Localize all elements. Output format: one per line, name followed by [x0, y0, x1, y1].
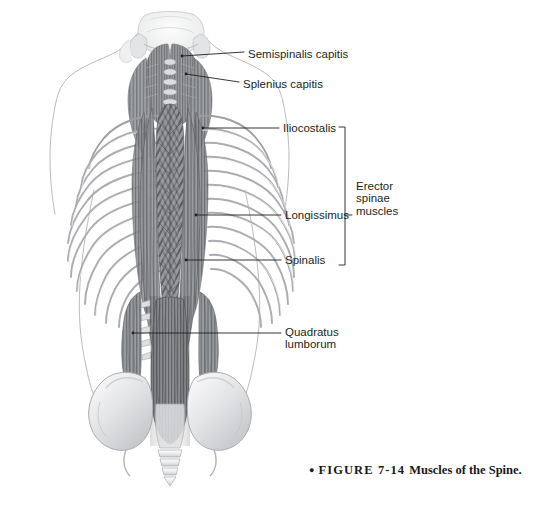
label-erector-spinae-muscles: Erector spinae muscles [356, 180, 398, 217]
label-iliocostalis: Iliocostalis [283, 122, 336, 134]
figure-container: Semispinalis capitis Splenius capitis Il… [0, 0, 544, 507]
spine-muscles-illustration [0, 0, 544, 507]
caption-figure-number: FIGURE 7-14 [318, 463, 405, 477]
caption-title: Muscles of the Spine. [409, 463, 522, 477]
label-semispinalis-capitis: Semispinalis capitis [248, 48, 348, 60]
figure-caption: ● FIGURE 7-14 Muscles of the Spine. [309, 460, 522, 478]
label-spinalis: Spinalis [285, 254, 325, 266]
label-splenius-capitis: Splenius capitis [243, 78, 323, 90]
erector-spinae-bracket [339, 127, 352, 265]
label-quadratus-lumborum: Quadratus lumborum [285, 326, 339, 351]
label-longissimus: Longissimus [285, 209, 349, 221]
erector-line-2: spinae [356, 192, 390, 204]
rib-cage-right [200, 116, 295, 327]
erector-line-3: muscles [356, 205, 398, 217]
erector-line-1: Erector [356, 180, 393, 192]
caption-bullet-icon: ● [309, 465, 314, 475]
